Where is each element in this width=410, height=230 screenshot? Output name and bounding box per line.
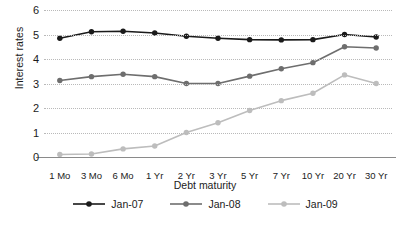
line-chart: Interest rates 01234561 Mo3 Mo6 Mo1 Yr2 … (0, 0, 410, 230)
data-point-marker (310, 91, 315, 96)
data-point-marker (310, 60, 315, 65)
gridline (44, 108, 392, 109)
data-point-marker (247, 37, 252, 42)
data-point-marker (120, 29, 125, 34)
y-axis-tick-label: 5 (33, 29, 39, 41)
data-point-marker (279, 98, 284, 103)
chart-legend: Jan-07Jan-08Jan-09 (0, 198, 410, 210)
y-axis-tick-label: 0 (33, 151, 39, 163)
y-axis-tick-label: 1 (33, 127, 39, 139)
legend-label: Jan-08 (208, 198, 240, 210)
y-axis-tick-label: 6 (33, 4, 39, 16)
legend-item[interactable]: Jan-09 (267, 198, 338, 210)
legend-item[interactable]: Jan-07 (72, 198, 143, 210)
data-point-marker (89, 151, 94, 156)
data-point-marker (342, 72, 347, 77)
data-point-marker (152, 143, 157, 148)
data-point-marker (247, 73, 252, 78)
plot-area: 01234561 Mo3 Mo6 Mo1 Yr2 Yr3 Yr5 Yr7 Yr1… (44, 10, 392, 157)
y-axis-tick-label: 4 (33, 53, 39, 65)
series-line (60, 47, 376, 84)
gridline (44, 35, 392, 36)
legend-marker-icon (72, 199, 106, 209)
gridline (44, 10, 392, 11)
y-axis-title: Interest rates (13, 3, 25, 113)
y-axis-tick-label: 3 (33, 78, 39, 90)
data-point-marker (120, 71, 125, 76)
x-axis-title: Debt maturity (0, 179, 410, 191)
data-point-marker (215, 120, 220, 125)
data-point-marker (373, 45, 378, 50)
gridline (44, 59, 392, 60)
legend-marker-icon (267, 199, 301, 209)
legend-item[interactable]: Jan-08 (169, 198, 240, 210)
data-point-marker (57, 35, 62, 40)
y-axis-tick-label: 2 (33, 102, 39, 114)
data-point-marker (310, 37, 315, 42)
x-axis-line (36, 157, 396, 158)
gridline (44, 84, 392, 85)
series-line (60, 75, 376, 155)
data-point-marker (89, 74, 94, 79)
data-point-marker (152, 74, 157, 79)
gridline (44, 133, 392, 134)
legend-marker-icon (169, 199, 203, 209)
data-point-marker (342, 44, 347, 49)
data-point-marker (57, 78, 62, 83)
data-point-marker (279, 66, 284, 71)
legend-label: Jan-07 (111, 198, 143, 210)
data-point-marker (120, 146, 125, 151)
legend-label: Jan-09 (306, 198, 338, 210)
data-point-marker (279, 37, 284, 42)
data-point-marker (215, 35, 220, 40)
